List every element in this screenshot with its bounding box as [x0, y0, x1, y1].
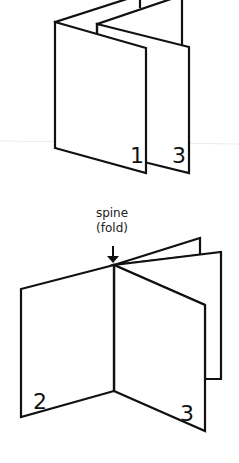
spine-label: spine — [96, 206, 128, 220]
middle-fold-top — [97, 0, 174, 24]
down-arrow-icon — [107, 246, 119, 263]
page-label-3-top: 3 — [172, 143, 186, 168]
diagram-canvas: 1 3 spine (fold) 2 3 — [0, 0, 239, 463]
booklet-figure: spine (fold) 2 3 — [21, 206, 221, 431]
page-label-2: 2 — [33, 389, 47, 414]
fold-label: (fold) — [96, 221, 128, 235]
folding-diagram: 1 3 spine (fold) 2 3 — [0, 0, 239, 463]
page-label-3-bottom: 3 — [180, 401, 194, 426]
accordion-fold-figure: 1 3 — [55, 0, 189, 173]
front-fold-top — [55, 0, 130, 22]
page-label-1: 1 — [130, 143, 144, 168]
